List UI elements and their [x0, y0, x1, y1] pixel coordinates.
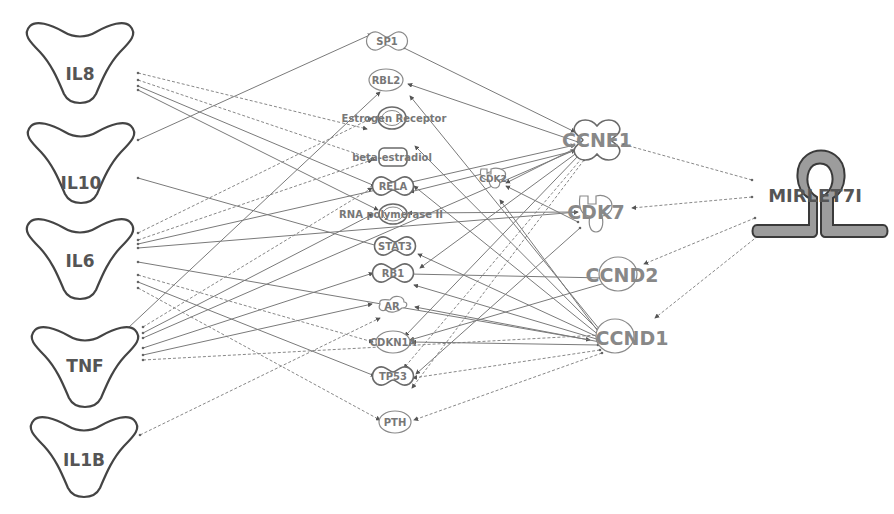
node-rna-polymerase-ii[interactable]: RNA polymerase II: [339, 204, 443, 224]
edge-start-dot: [142, 359, 145, 362]
node-CDK7[interactable]: CDK7: [567, 195, 625, 232]
edge-start-dot: [142, 326, 145, 329]
edge-line: [404, 158, 582, 368]
node-label: IL1B: [63, 450, 105, 470]
edge-line: [412, 160, 584, 388]
edge-start-dot: [137, 274, 140, 277]
node-label: RNA polymerase II: [339, 209, 443, 220]
node-label: RBL2: [372, 75, 401, 86]
node-estrogen-receptor[interactable]: Estrogen Receptor: [342, 107, 447, 129]
edge-start-dot: [137, 72, 140, 75]
node-SP1[interactable]: SP1: [367, 32, 408, 50]
edge-start-dot: [142, 347, 145, 350]
node-label: CCND2: [586, 264, 659, 286]
node-label: RB1: [382, 268, 404, 279]
edge-start-dot: [137, 243, 140, 246]
edge-start-dot: [142, 332, 145, 335]
edge-start-dot: [601, 352, 604, 355]
edge-line: [632, 197, 752, 208]
edge-line: [138, 34, 372, 140]
pathway-network-diagram: IL8 IL10 IL6 TNF IL1B SP1 RBL2 Estrogen …: [0, 0, 894, 514]
node-CCNE1[interactable]: CCNE1: [562, 120, 632, 160]
node-label: beta-estradiol: [352, 152, 432, 163]
edge-start-dot: [137, 79, 140, 82]
node-RELA[interactable]: RELA: [373, 177, 414, 195]
edge-line: [414, 353, 602, 420]
edge-line: [409, 274, 605, 278]
edge-line: [138, 282, 375, 376]
node-label: AR: [384, 301, 400, 312]
node-IL6[interactable]: IL6: [27, 219, 134, 299]
node-IL1B[interactable]: IL1B: [31, 417, 138, 497]
node-STAT3[interactable]: STAT3: [375, 237, 416, 255]
node-label: CCND1: [596, 327, 669, 349]
node-label: IL6: [66, 251, 95, 271]
edge-start-dot: [137, 232, 140, 235]
node-TP53[interactable]: TP53: [373, 367, 414, 385]
edge-line: [143, 304, 372, 355]
edge-start-dot: [137, 247, 140, 250]
node-MIRLET7I[interactable]: MIRLET7I: [753, 151, 888, 238]
node-AR[interactable]: AR: [379, 296, 407, 312]
edge-start-dot: [599, 349, 602, 352]
edge-start-dot: [137, 177, 140, 180]
edge-start-dot: [142, 354, 145, 357]
edge-start-dot: [137, 281, 140, 284]
node-RB1[interactable]: RB1: [373, 264, 414, 282]
edge-start-dot: [137, 261, 140, 264]
node-CDK2[interactable]: CDK2: [479, 168, 506, 188]
node-label: CDKN1A: [370, 337, 417, 348]
edge-start-dot: [137, 89, 140, 92]
node-label: SP1: [376, 36, 398, 47]
node-label: IL8: [66, 64, 95, 84]
edge-start-dot: [142, 337, 145, 340]
edge-line: [138, 90, 378, 210]
edge-start-dot: [137, 239, 140, 242]
node-label: CCNE1: [562, 129, 632, 151]
edge-start-dot: [751, 179, 754, 182]
edge-line: [622, 144, 752, 180]
edge-start-dot: [137, 85, 140, 88]
edge-line: [138, 160, 372, 240]
edge-start-dot: [137, 139, 140, 142]
node-label: TNF: [66, 356, 103, 376]
node-label: RELA: [379, 181, 408, 192]
node-IL8[interactable]: IL8: [27, 23, 134, 103]
node-label: STAT3: [378, 241, 412, 252]
node-label: MIRLET7I: [768, 185, 862, 206]
edge-start-dot: [754, 217, 757, 220]
edge-line: [644, 218, 755, 264]
edge-line: [143, 188, 372, 327]
node-label: CDK2: [479, 174, 506, 184]
edge-start-dot: [137, 287, 140, 290]
edges-layer: [127, 34, 760, 436]
edge-line: [655, 236, 758, 318]
edge-line: [415, 146, 600, 332]
node-TNF[interactable]: TNF: [32, 327, 139, 407]
node-label: TP53: [379, 371, 407, 382]
edge-line: [138, 80, 375, 160]
node-CDKN1A[interactable]: CDKN1A: [370, 331, 417, 353]
edge-line: [140, 318, 380, 435]
node-label: Estrogen Receptor: [342, 113, 447, 124]
node-PTH[interactable]: PTH: [379, 411, 411, 433]
node-RBL2[interactable]: RBL2: [369, 69, 403, 91]
edge-line: [416, 228, 580, 374]
edge-line: [143, 214, 373, 333]
node-CCND1[interactable]: CCND1: [596, 319, 669, 353]
node-label: IL10: [61, 173, 102, 193]
edge-line: [143, 273, 373, 348]
edge-start-dot: [139, 434, 142, 437]
node-IL10[interactable]: IL10: [28, 123, 135, 203]
edge-line: [143, 150, 575, 338]
node-label: PTH: [384, 417, 407, 428]
edge-start-dot: [751, 196, 754, 199]
node-label: CDK7: [567, 201, 625, 223]
edge-start-dot: [579, 227, 582, 230]
